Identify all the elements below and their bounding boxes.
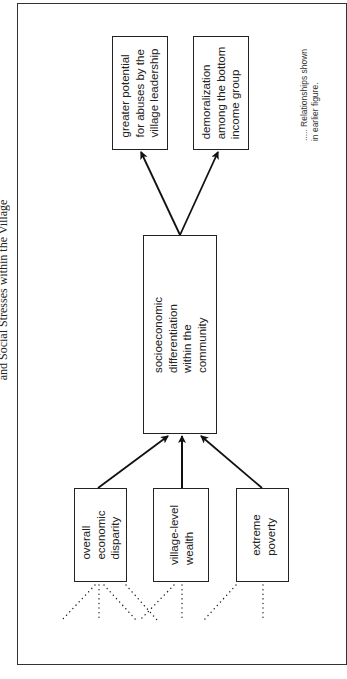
node-poverty-label: extreme poverty bbox=[248, 514, 277, 556]
legend-text: ..... Relationships shown in earlier fig… bbox=[299, 49, 321, 141]
node-wealth: village-level wealth bbox=[153, 488, 209, 582]
edge-differentiation-demoralization bbox=[180, 152, 218, 235]
node-demoralization-label: demoralization among the bottom income g… bbox=[199, 47, 243, 140]
node-disparity-label: overall economic disparity bbox=[79, 510, 123, 559]
node-poverty: extreme poverty bbox=[236, 488, 289, 582]
edge-differentiation-abuses bbox=[141, 152, 180, 235]
node-disparity: overall economic disparity bbox=[74, 488, 127, 582]
legend: ..... Relationships shown in earlier fig… bbox=[296, 34, 324, 156]
node-wealth-label: village-level wealth bbox=[167, 505, 196, 565]
edge-disparity-differentiation bbox=[98, 436, 168, 488]
node-abuses-label: greater potential for abuses by the vill… bbox=[118, 49, 162, 138]
node-demoralization: demoralization among the bottom income g… bbox=[193, 36, 249, 150]
edge-poverty-differentiation bbox=[201, 436, 262, 488]
node-differentiation: socioeconomic differentiation within the… bbox=[143, 235, 217, 434]
dotted-relationships bbox=[62, 585, 263, 621]
node-abuses: greater potential for abuses by the vill… bbox=[112, 36, 168, 150]
node-differentiation-label: socioeconomic differentiation within the… bbox=[151, 296, 209, 372]
